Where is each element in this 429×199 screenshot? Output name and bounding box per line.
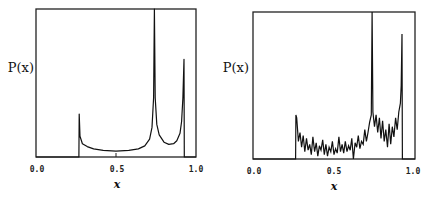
- left-x-axis-label: x: [113, 178, 121, 191]
- right-tick-label-1: 1.0: [406, 167, 421, 176]
- left-panel: 0.0 0.5 1.0 x P(x): [8, 9, 204, 191]
- right-y-axis-label: P(x): [223, 60, 249, 75]
- left-tick-label-1: 1.0: [189, 165, 204, 174]
- right-curve: [253, 12, 415, 159]
- left-tick-label-05: 0.5: [110, 165, 125, 174]
- right-tick-label-0: 0.0: [247, 167, 262, 176]
- left-plot-frame: [36, 9, 196, 157]
- figure: 0.0 0.5 1.0 x P(x) 0.0 0.5 1.0 x P(x): [0, 0, 429, 199]
- left-curve: [36, 9, 196, 157]
- left-tick-label-0: 0.0: [30, 165, 45, 174]
- right-x-axis-label: x: [330, 180, 338, 193]
- left-y-axis-label: P(x): [8, 60, 34, 75]
- right-panel: 0.0 0.5 1.0 x P(x): [223, 12, 421, 193]
- right-tick-label-05: 0.5: [327, 167, 342, 176]
